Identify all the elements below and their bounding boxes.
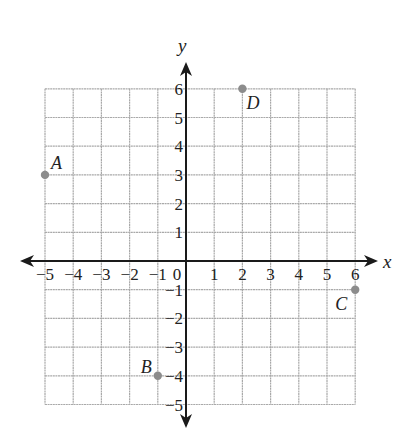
y-tick-label: −5	[165, 396, 183, 415]
y-tick-label: 4	[175, 137, 184, 156]
x-axis-label: x	[382, 251, 392, 272]
x-tick-label: 2	[238, 265, 247, 284]
point-b: B	[141, 357, 162, 380]
x-tick-label: 3	[266, 265, 275, 284]
tick-labels: −5−4−3−2−10123456−5−4−3−2−1123456	[36, 80, 359, 415]
y-tick-label: −2	[165, 309, 183, 328]
y-axis-label: y	[176, 35, 187, 56]
y-tick-label: 5	[175, 109, 184, 128]
y-tick-label: 6	[175, 80, 184, 99]
y-tick-label: 1	[175, 223, 184, 242]
point-marker	[41, 171, 49, 179]
y-tick-label: −1	[165, 281, 183, 300]
point-marker	[154, 372, 162, 380]
x-tick-label: 1	[210, 265, 219, 284]
x-tick-label: −3	[92, 265, 110, 284]
y-tick-label: 2	[175, 195, 184, 214]
point-label: A	[50, 153, 63, 173]
point-label: B	[141, 357, 152, 377]
coordinate-plane: x y −5−4−3−2−10123456−5−4−3−2−1123456 AB…	[0, 0, 409, 443]
point-label: C	[335, 294, 348, 314]
x-tick-label: 4	[295, 265, 304, 284]
y-tick-label: −4	[165, 367, 184, 386]
x-tick-label: 5	[323, 265, 332, 284]
point-marker	[351, 286, 359, 294]
x-tick-label: −4	[64, 265, 83, 284]
x-tick-label: −2	[121, 265, 139, 284]
grid	[45, 89, 355, 405]
x-tick-label: −5	[36, 265, 54, 284]
y-tick-label: 3	[175, 166, 184, 185]
x-tick-label: 6	[351, 265, 360, 284]
y-tick-label: −3	[165, 338, 183, 357]
axes: x y	[20, 35, 392, 428]
point-label: D	[245, 93, 259, 113]
point-marker	[238, 85, 246, 93]
